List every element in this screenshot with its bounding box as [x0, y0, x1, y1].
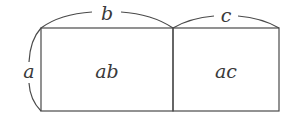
- arc-c-right: [238, 16, 279, 28]
- arc-b-left: [41, 12, 92, 28]
- dimension-arcs: [29, 12, 279, 111]
- arc-b-right: [121, 12, 173, 28]
- arc-a-bottom: [29, 83, 41, 111]
- rectangles: [41, 28, 279, 111]
- label-c: c: [221, 4, 232, 26]
- label-ab: ab: [95, 60, 119, 82]
- arc-a-top: [29, 28, 41, 62]
- label-b: b: [101, 2, 113, 24]
- arc-c-left: [173, 16, 214, 28]
- label-a: a: [23, 60, 34, 82]
- label-ac: ac: [215, 60, 237, 82]
- area-model-diagram: b c a ab ac: [0, 0, 298, 128]
